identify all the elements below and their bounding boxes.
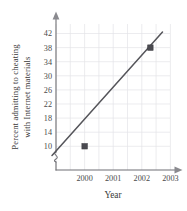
x-axis-arrowhead [175, 167, 183, 174]
data-trend-line [52, 32, 163, 156]
y-tick-label-14: 14 [44, 128, 52, 137]
y-tick-label-26: 26 [44, 86, 52, 95]
x-axis-title: Year [104, 190, 122, 200]
data-point-markers [82, 45, 153, 149]
x-tick-label-2001: 2001 [105, 174, 121, 183]
data-point-2000 [82, 144, 87, 149]
y-axis-arrowhead [53, 12, 60, 20]
y-axis-title-line2: with Internet materials [22, 56, 32, 138]
x-tick-labels: 2000 2001 2002 2003 [76, 174, 178, 183]
x-tick-label-2003: 2003 [162, 174, 178, 183]
line-chart: 42 38 34 30 26 22 18 14 10 2000 2001 200… [0, 0, 187, 211]
y-axis-title: Percent admitting to cheating with Inter… [10, 44, 32, 150]
y-tick-labels: 42 38 34 30 26 22 18 14 10 [44, 29, 52, 151]
x-tick-label-2000: 2000 [76, 174, 92, 183]
axes [56, 16, 178, 170]
y-tick-label-42: 42 [44, 29, 52, 38]
y-tick-label-18: 18 [44, 114, 52, 123]
y-axis-title-line1: Percent admitting to cheating [10, 44, 20, 150]
chart-container: 42 38 34 30 26 22 18 14 10 2000 2001 200… [0, 0, 187, 211]
y-tick-label-10: 10 [44, 142, 52, 151]
data-point-2003 [148, 45, 153, 50]
y-tick-label-34: 34 [44, 58, 52, 67]
y-tick-label-38: 38 [44, 44, 52, 53]
x-tick-label-2002: 2002 [134, 174, 150, 183]
y-tick-label-22: 22 [44, 100, 52, 109]
y-tick-label-30: 30 [44, 72, 52, 81]
